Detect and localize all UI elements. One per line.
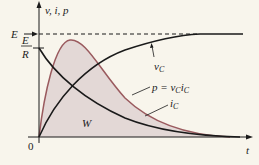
vc-leader-arrow-icon xyxy=(150,43,154,48)
origin-label: 0 xyxy=(28,140,34,152)
x-axis-label: t xyxy=(246,144,250,156)
vc-label: vC xyxy=(154,60,165,74)
level-er-denominator: R xyxy=(21,48,29,60)
e-pointer-arrow-icon xyxy=(32,32,38,37)
ic-label: iC xyxy=(170,97,179,111)
p-leader-line xyxy=(132,87,150,95)
p-label: p = vCiC xyxy=(151,81,190,95)
y-axis-arrow-icon xyxy=(37,1,42,8)
level-er-numerator: E xyxy=(21,34,29,46)
energy-area-fill xyxy=(39,40,230,137)
x-axis-arrow-icon xyxy=(246,135,253,140)
ic-leader-line xyxy=(145,105,168,116)
y-axis-label: v, i, p xyxy=(45,4,69,16)
energy-area-label: W xyxy=(82,117,92,129)
level-e-label: E xyxy=(10,28,18,40)
capacitor-charging-diagram: v, i, p t 0 E E R vC p = vCiC iC W xyxy=(0,0,259,165)
